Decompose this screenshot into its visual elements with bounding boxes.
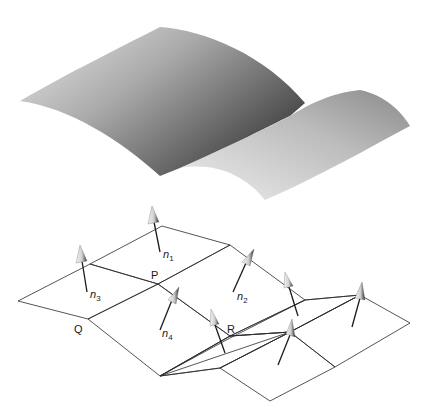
normal-arrow-far-right (352, 282, 365, 327)
surface-normals-diagram: P Q R n1 n2 n3 n4 (0, 0, 428, 409)
normal-arrow-valley-middle (278, 319, 295, 365)
polygon-mesh (18, 226, 410, 401)
diagram-labels: P Q R n1 n2 n3 n4 (74, 248, 248, 342)
facet-bottom-right-a (220, 332, 335, 401)
normal-arrow-n4 (160, 287, 179, 330)
smooth-surface (20, 27, 410, 200)
normal-label-n2: n2 (237, 290, 248, 305)
facet-bottom-right-b (290, 295, 410, 367)
vertex-label-r: R (227, 323, 235, 335)
vertex-label-p: P (151, 269, 158, 281)
normal-arrow-n2 (233, 249, 254, 292)
normal-arrows (76, 206, 365, 365)
facet-valley-strip-right (230, 295, 360, 336)
facet-front-slope-left (88, 284, 230, 376)
normal-label-n1: n1 (163, 248, 174, 263)
vertex-label-q: Q (74, 323, 83, 335)
facet-top-left-b (90, 226, 230, 284)
normal-arrow-n1 (148, 206, 160, 252)
facet-top-left-a (18, 264, 158, 319)
normal-label-n3: n3 (90, 288, 101, 303)
normal-label-n4: n4 (162, 327, 173, 342)
